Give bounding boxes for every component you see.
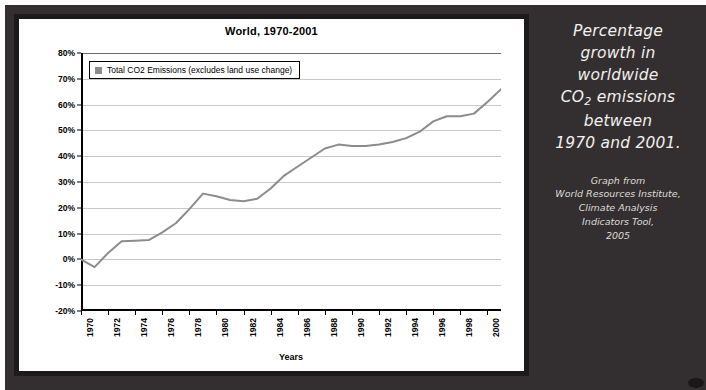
chart-legend: Total CO2 Emissions (excludes land use c… — [89, 61, 300, 79]
x-axis-tick-label: 1986 — [302, 318, 312, 337]
y-axis-tick-label: 70% — [58, 74, 75, 84]
x-axis-tick-label: 1982 — [248, 318, 258, 337]
caption-co2-prefix: CO — [561, 88, 584, 106]
y-axis-tick-label: 50% — [58, 125, 75, 135]
x-axis-tick-mark — [271, 311, 272, 315]
source-attribution: Graph from World Resources Institute, Cl… — [538, 174, 698, 243]
x-axis-tick-mark — [135, 311, 136, 315]
y-axis-tick-label: -20% — [55, 306, 75, 316]
x-axis-tick-mark — [487, 311, 488, 315]
outer-margin-left — [0, 0, 5, 390]
x-axis-tick-label: 1996 — [437, 318, 447, 337]
x-axis-title: Years — [81, 352, 501, 362]
caption-line-3: worldwide — [538, 64, 698, 86]
x-axis-tick-label: 1992 — [383, 318, 393, 337]
y-axis-tick-label: 20% — [58, 203, 75, 213]
x-axis-tick-label: 1976 — [166, 318, 176, 337]
x-axis-tick-mark — [108, 311, 109, 315]
x-axis-tick-mark — [216, 311, 217, 315]
x-axis-tick-label: 1978 — [193, 318, 203, 337]
caption-line-2: growth in — [538, 42, 698, 64]
y-axis-tick-label: 60% — [58, 100, 75, 110]
y-axis-tick-label: 0% — [63, 254, 75, 264]
caption-text: Percentage growth in worldwide CO2 emiss… — [538, 20, 698, 154]
plot-area: 80%70%60%50%40%30%20%10%0%-10%-20% 19701… — [81, 53, 501, 311]
x-axis-tick-mark — [298, 311, 299, 315]
source-line-5: 2005 — [538, 229, 698, 243]
x-axis-tick-mark — [162, 311, 163, 315]
chart-card: World, 1970-2001 Percentage Growth from … — [14, 14, 529, 376]
x-axis-tick-label: 1988 — [329, 318, 339, 337]
chart-inner: World, 1970-2001 Percentage Growth from … — [19, 19, 524, 371]
caption-panel: Percentage growth in worldwide CO2 emiss… — [538, 20, 698, 242]
chart-title: World, 1970-2001 — [19, 25, 524, 37]
legend-swatch-icon — [95, 67, 102, 74]
caption-line-4: CO2 emissions — [538, 86, 698, 110]
x-axis-tick-label: 1998 — [464, 318, 474, 337]
source-line-4: Indicators Tool, — [538, 215, 698, 229]
y-axis-tick-label: 80% — [58, 48, 75, 58]
x-axis-tick-label: 1984 — [275, 318, 285, 337]
x-axis-tick-mark — [189, 311, 190, 315]
y-axis-tick-label: 30% — [58, 177, 75, 187]
caption-co2-subscript: 2 — [584, 95, 591, 108]
x-axis-tick-mark — [406, 311, 407, 315]
x-axis-tick-label: 1972 — [112, 318, 122, 337]
caption-line-6: 1970 and 2001. — [538, 132, 698, 154]
corner-mark — [688, 378, 704, 388]
slide-root: World, 1970-2001 Percentage Growth from … — [0, 0, 706, 390]
x-axis-tick-mark — [244, 311, 245, 315]
caption-line-1: Percentage — [538, 20, 698, 42]
series-polyline — [81, 89, 501, 267]
x-axis-tick-label: 2000 — [491, 318, 501, 337]
source-line-2: World Resources Institute, — [538, 187, 698, 201]
x-axis-tick-label: 1990 — [356, 318, 366, 337]
legend-label: Total CO2 Emissions (excludes land use c… — [107, 65, 292, 75]
outer-margin-top — [0, 0, 706, 5]
x-axis-tick-mark — [81, 311, 82, 315]
caption-co2-suffix: emissions — [592, 88, 676, 106]
x-axis-tick-mark — [325, 311, 326, 315]
x-axis-tick-mark — [379, 311, 380, 315]
y-axis-tick-label: -10% — [55, 280, 75, 290]
x-axis-tick-mark — [433, 311, 434, 315]
x-axis-tick-mark — [352, 311, 353, 315]
y-axis-tick-label: 40% — [58, 151, 75, 161]
caption-line-5: between — [538, 110, 698, 132]
y-axis-tick-label: 10% — [58, 229, 75, 239]
x-axis-tick-label: 1980 — [220, 318, 230, 337]
source-line-1: Graph from — [538, 174, 698, 188]
x-axis-tick-label: 1994 — [410, 318, 420, 337]
x-axis-tick-mark — [460, 311, 461, 315]
x-axis-tick-label: 1974 — [139, 318, 149, 337]
x-axis-tick-label: 1970 — [85, 318, 95, 337]
series-line-co2 — [81, 53, 501, 311]
source-line-3: Climate Analysis — [538, 201, 698, 215]
